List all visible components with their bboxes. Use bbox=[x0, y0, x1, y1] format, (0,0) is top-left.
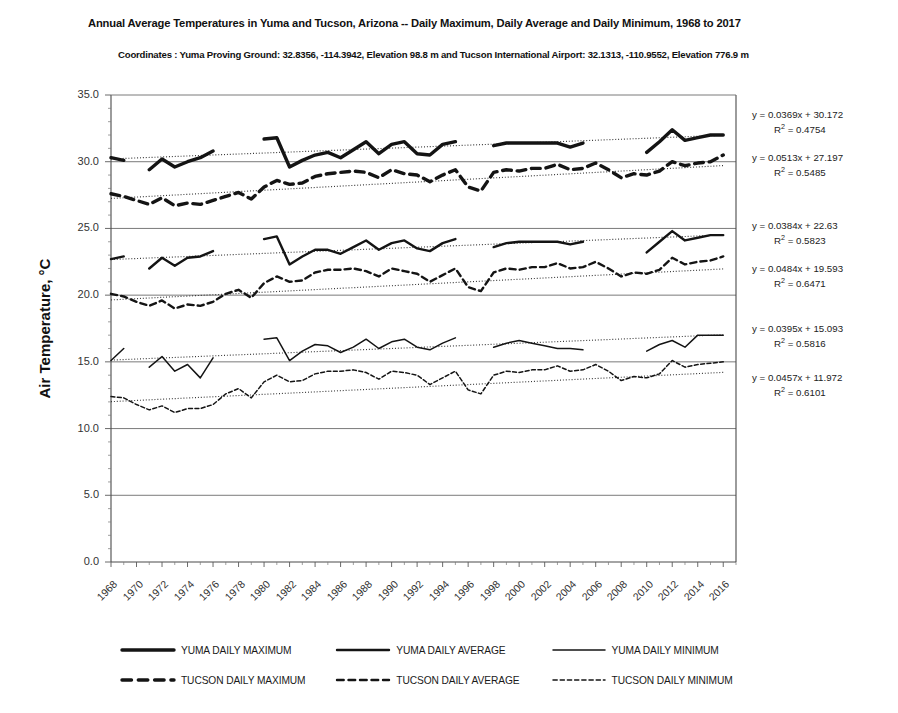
chart-title: Annual Average Temperatures in Yuma and … bbox=[88, 17, 828, 29]
y-axis-tick-label: 35.0 bbox=[53, 88, 99, 100]
legend-item[interactable]: TUCSON DAILY MAXIMUM bbox=[120, 668, 335, 692]
legend-item[interactable]: TUCSON DAILY MINIMUM bbox=[551, 668, 766, 692]
series-line-tucson-daily-average bbox=[111, 256, 723, 308]
trendline-r2-text: R2 = 0.5823 bbox=[752, 233, 838, 248]
trendline-tucson-daily-minimum bbox=[111, 372, 723, 401]
legend-item-label: YUMA DAILY MAXIMUM bbox=[181, 645, 291, 656]
legend-item-label: TUCSON DAILY MAXIMUM bbox=[181, 675, 305, 686]
y-axis-tick-label: 30.0 bbox=[53, 155, 99, 167]
trendline-equation-text: y = 0.0384x + 22.63 bbox=[752, 219, 838, 233]
thin-solid-line-icon bbox=[551, 643, 607, 657]
trendline-equation-text: y = 0.0484x + 19.593 bbox=[752, 262, 843, 276]
legend-row: YUMA DAILY MAXIMUMYUMA DAILY AVERAGEYUMA… bbox=[120, 638, 766, 662]
trendline-equation-text: y = 0.0457x + 11.972 bbox=[752, 371, 842, 385]
series-line-yuma-daily-average bbox=[111, 231, 723, 268]
legend-item-label: YUMA DAILY MINIMUM bbox=[612, 645, 719, 656]
legend-row: TUCSON DAILY MAXIMUMTUCSON DAILY AVERAGE… bbox=[120, 668, 766, 692]
trendline-tucson-daily-maximum bbox=[111, 166, 723, 199]
legend-item-label: TUCSON DAILY MINIMUM bbox=[612, 675, 733, 686]
trendline-equation-block: y = 0.0457x + 11.972R2 = 0.6101 bbox=[752, 371, 842, 400]
trendline-r2-text: R2 = 0.6471 bbox=[752, 276, 843, 291]
series-line-tucson-daily-maximum bbox=[111, 155, 723, 206]
medium-solid-line-icon bbox=[335, 643, 391, 657]
legend-item[interactable]: TUCSON DAILY AVERAGE bbox=[335, 668, 550, 692]
trendline-equation-text: y = 0.0369x + 30.172 bbox=[752, 108, 843, 122]
y-axis-tick-label: 20.0 bbox=[53, 288, 99, 300]
trendline-equation-block: y = 0.0395x + 15.093R2 = 0.5816 bbox=[752, 322, 843, 351]
legend-item[interactable]: YUMA DAILY AVERAGE bbox=[335, 638, 550, 662]
trendline-equation-block: y = 0.0384x + 22.63R2 = 0.5823 bbox=[752, 219, 838, 248]
legend-item[interactable]: YUMA DAILY MINIMUM bbox=[551, 638, 766, 662]
trendline-r2-text: R2 = 0.4754 bbox=[752, 122, 843, 137]
thick-dashed-line-icon bbox=[120, 673, 176, 687]
y-axis-tick-label: 10.0 bbox=[53, 422, 99, 434]
thin-dashed-line-icon bbox=[551, 673, 607, 687]
chart-subtitle: Coordinates : Yuma Proving Ground: 32.83… bbox=[118, 49, 878, 60]
chart-legend: YUMA DAILY MAXIMUMYUMA DAILY AVERAGEYUMA… bbox=[120, 638, 766, 696]
y-axis-tick-label: 5.0 bbox=[53, 488, 99, 500]
thick-solid-line-icon bbox=[120, 643, 176, 657]
series-line-tucson-daily-minimum bbox=[111, 361, 723, 413]
trendline-equation-text: y = 0.0395x + 15.093 bbox=[752, 322, 843, 336]
series-line-yuma-daily-minimum bbox=[111, 335, 723, 378]
y-axis-tick-label: 0.0 bbox=[53, 555, 99, 567]
chart-figure: Annual Average Temperatures in Yuma and … bbox=[0, 0, 898, 713]
medium-dashed-line-icon bbox=[335, 673, 391, 687]
legend-item-label: TUCSON DAILY AVERAGE bbox=[396, 675, 519, 686]
trendline-r2-text: R2 = 0.5485 bbox=[752, 165, 843, 180]
y-axis-tick-label: 15.0 bbox=[53, 355, 99, 367]
y-axis-tick-label: 25.0 bbox=[53, 221, 99, 233]
trendline-equation-block: y = 0.0484x + 19.593R2 = 0.6471 bbox=[752, 262, 843, 291]
trendline-r2-text: R2 = 0.6101 bbox=[752, 385, 842, 400]
y-axis-label: Air Temperature, °C bbox=[36, 119, 53, 539]
trendline-r2-text: R2 = 0.5816 bbox=[752, 336, 843, 351]
trendline-equation-text: y = 0.0513x + 27.197 bbox=[752, 151, 843, 165]
trendline-equation-block: y = 0.0513x + 27.197R2 = 0.5485 bbox=[752, 151, 843, 180]
legend-item[interactable]: YUMA DAILY MAXIMUM bbox=[120, 638, 335, 662]
trendline-equation-block: y = 0.0369x + 30.172R2 = 0.4754 bbox=[752, 108, 843, 137]
series-line-yuma-daily-maximum bbox=[111, 130, 723, 170]
legend-item-label: YUMA DAILY AVERAGE bbox=[396, 645, 505, 656]
